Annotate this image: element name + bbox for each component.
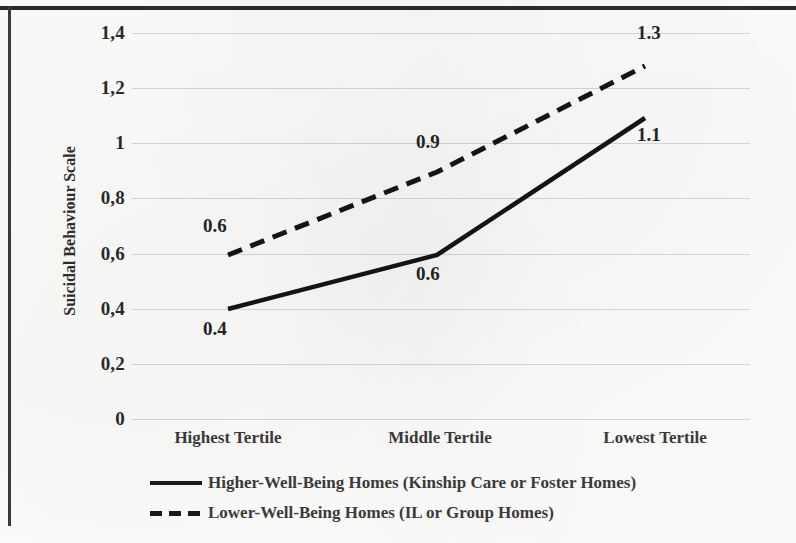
data-label-higher-lowest: 1.1 (637, 124, 661, 146)
legend-label: Higher-Well-Being Homes (Kinship Care or… (208, 473, 636, 493)
data-label-lower-lowest: 1.3 (637, 22, 661, 44)
x-axis-tick-label-middle: Middle Tertile (330, 428, 550, 448)
x-axis-tick-label-highest: Highest Tertile (118, 428, 338, 448)
data-label-lower-middle: 0.9 (416, 131, 440, 153)
data-label-higher-middle: 0.6 (416, 263, 440, 285)
legend-label: Lower-Well-Being Homes (IL or Group Home… (208, 503, 554, 523)
series-lines (0, 0, 796, 543)
chart-legend: Higher-Well-Being Homes (Kinship Care or… (150, 468, 770, 528)
x-axis-tick-label-lowest: Lowest Tertile (545, 428, 765, 448)
legend-solid-line-icon (150, 476, 202, 490)
data-label-lower-highest: 0.6 (203, 215, 227, 237)
chart-figure: 1,4 1,2 1 0,8 0,6 0,4 0,2 0 Suicidal Beh… (0, 0, 796, 543)
data-label-higher-highest: 0.4 (203, 318, 227, 340)
legend-item-lower-well-being: Lower-Well-Being Homes (IL or Group Home… (150, 498, 770, 528)
legend-dashed-line-icon (150, 506, 202, 520)
plot-area: 1,4 1,2 1 0,8 0,6 0,4 0,2 0 Suicidal Beh… (0, 0, 796, 543)
legend-item-higher-well-being: Higher-Well-Being Homes (Kinship Care or… (150, 468, 770, 498)
